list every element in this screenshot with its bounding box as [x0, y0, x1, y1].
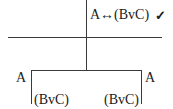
right-branch-formula-2: (BvC) — [104, 93, 139, 107]
branch-bar — [31, 70, 142, 71]
left-branch-line — [31, 70, 32, 104]
left-branch-formula-2: (BvC) — [34, 93, 69, 107]
right-branch-formula-1: A — [145, 71, 155, 85]
separator-line — [8, 37, 162, 38]
left-branch-formula-1: A — [16, 71, 26, 85]
right-branch-line — [141, 70, 142, 104]
root-formula: A↔(BvC) — [90, 8, 149, 22]
checkmark-icon: ✓ — [155, 9, 166, 22]
trunk-line — [86, 0, 87, 70]
